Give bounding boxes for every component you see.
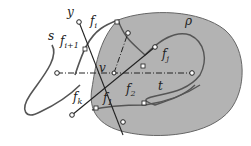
endpoint-fj [153,45,158,50]
marker-t [142,101,146,105]
label-rho: ρ [184,14,192,28]
marker-fi1 [83,47,87,51]
label-y: y [66,5,74,19]
curve-s [25,45,80,115]
endpoint-bottom [121,120,126,125]
endpoint-y [77,20,82,25]
label-s: s [48,29,54,43]
marker-fk [94,106,98,110]
marker-fj [141,64,145,68]
diagram-canvas: y s ρ v t fi fi+1 fj fk f1 f2 [0,0,251,146]
label-fi: fi [89,14,97,30]
endpoint-left [55,71,60,76]
endpoint-fk [70,113,75,118]
vertex-v [112,71,116,75]
endpoint-right [190,71,195,76]
label-t: t [158,79,163,93]
marker-fi [115,20,119,24]
label-fk: fk [72,90,82,106]
diagram-svg: y s ρ v t fi fi+1 fj fk f1 f2 [0,0,251,146]
label-fi1: fi+1 [59,34,79,50]
label-v: v [99,61,106,75]
endpoint-top [126,31,131,36]
